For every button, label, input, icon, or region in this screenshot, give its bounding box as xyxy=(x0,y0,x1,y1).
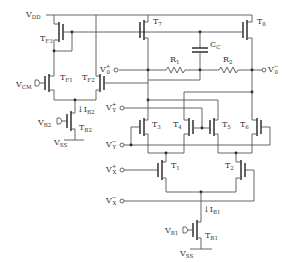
svg-text:TF2: TF2 xyxy=(82,73,95,83)
svg-text:T2: T2 xyxy=(225,161,234,171)
capacitor-cc: CC xyxy=(192,31,220,70)
svg-text:T3: T3 xyxy=(152,120,161,130)
transistor-tb1: TB1 xyxy=(183,220,218,249)
transistor-tf3: TF3 xyxy=(40,15,73,52)
vo-plus-label: V+0 xyxy=(99,63,111,75)
transistor-t1: T1 xyxy=(124,160,180,192)
svg-text:T7: T7 xyxy=(153,17,162,27)
svg-text:TF3: TF3 xyxy=(40,34,53,44)
circuit-diagram: VDD TF3 TF1 VCM TF2 xyxy=(0,0,296,262)
vss-top-label: VSS xyxy=(53,138,67,148)
vx-minus-label: V−X xyxy=(105,194,117,206)
resistor-r2 xyxy=(219,67,238,73)
vx-plus-label: V+X xyxy=(105,163,117,175)
svg-text:CC: CC xyxy=(210,40,220,50)
vx-minus-terminal xyxy=(120,199,124,203)
transistor-t2: T2 xyxy=(225,160,254,201)
transistor-t6: T6 xyxy=(240,118,270,153)
transistor-tb2: TB2 xyxy=(57,111,92,140)
vy-minus-label: V−Y xyxy=(105,138,117,150)
ib1-label: ↓IB1 xyxy=(203,205,220,215)
transistor-t7: T7 xyxy=(140,15,162,70)
svg-text:T8: T8 xyxy=(257,17,266,27)
vdd-label: VDD xyxy=(25,10,41,20)
transistor-tf1: TF1 xyxy=(35,73,73,100)
schematic-svg: VDD TF3 TF1 VCM TF2 xyxy=(0,0,296,262)
resistor-r1 xyxy=(166,67,185,73)
svg-text:TB2: TB2 xyxy=(79,123,92,133)
svg-text:TB1: TB1 xyxy=(205,231,218,241)
vb1-label: VB1 xyxy=(164,226,178,236)
svg-text:T1: T1 xyxy=(171,161,180,171)
vy-minus-terminal xyxy=(120,143,124,147)
vss-bottom-label: VSS xyxy=(179,249,193,259)
r1-label: R1 xyxy=(170,55,180,65)
transistor-t5: T5 xyxy=(202,118,231,153)
transistor-t4: T4 xyxy=(173,118,202,153)
transistor-t3: T3 xyxy=(131,118,161,153)
vx-plus-terminal xyxy=(120,168,124,172)
vo-minus-terminal xyxy=(262,68,266,72)
vcm-label: VCM xyxy=(15,80,32,90)
svg-text:TF1: TF1 xyxy=(60,73,73,83)
vo-plus-terminal xyxy=(114,68,118,72)
svg-text:T5: T5 xyxy=(222,120,231,130)
vy-plus-label: V+Y xyxy=(105,101,117,113)
transistor-tf2: TF2 xyxy=(82,15,148,100)
vy-plus-terminal xyxy=(120,106,124,110)
ib2-label: ↓IB2 xyxy=(77,105,94,115)
vb2-label: VB2 xyxy=(37,118,51,128)
svg-text:T6: T6 xyxy=(240,120,249,130)
transistor-t8: T8 xyxy=(239,15,266,70)
r2-label: R2 xyxy=(223,55,233,65)
svg-text:T4: T4 xyxy=(173,120,182,130)
vo-minus-label: V−0 xyxy=(267,63,279,75)
